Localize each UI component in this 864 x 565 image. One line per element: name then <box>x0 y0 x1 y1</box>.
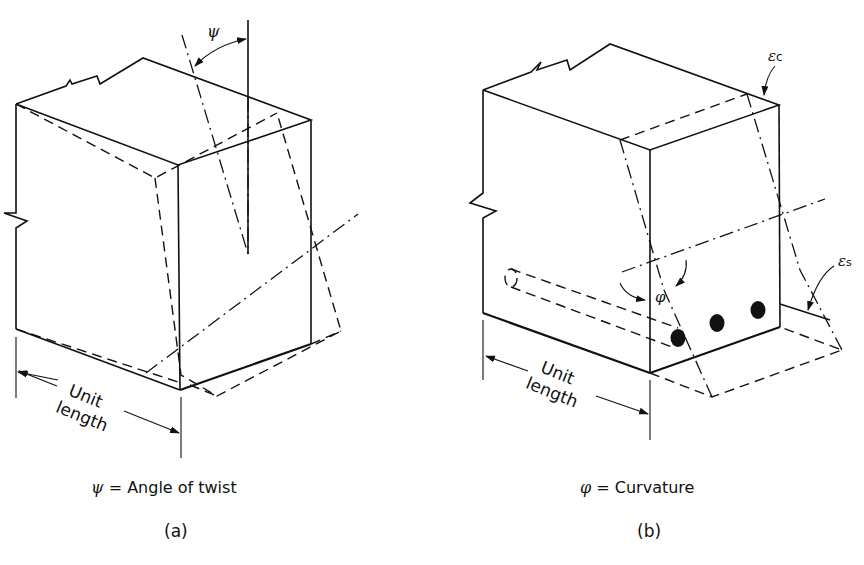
block-b-bottom-right-edge <box>650 327 780 373</box>
panel-b-curvature-block: φ εc εs Unit length <box>470 44 852 440</box>
steel-strain-label: εs <box>838 252 852 270</box>
rebar-dot-3 <box>751 301 766 319</box>
dim-b-arrow-right <box>596 396 648 414</box>
block-b-left-face <box>470 90 496 313</box>
block-a-top-face <box>16 58 311 165</box>
block-a-bottom-right-edge <box>180 344 311 390</box>
caption-a-symbol: ψ <box>91 478 104 497</box>
block-a-bottom-left-edge <box>16 329 180 390</box>
caption-b-symbol: φ <box>580 478 591 497</box>
rebar-cylinder-top <box>511 269 678 328</box>
concrete-strain-label: εc <box>768 47 783 65</box>
dim-b-arrow-left <box>486 356 528 371</box>
phi-arrow-left <box>620 283 645 300</box>
block-b-rotated-top <box>620 94 747 140</box>
sublabel-b: (b) <box>637 521 661 541</box>
longitudinal-axis-a <box>146 214 358 373</box>
rotated-section-front <box>620 140 712 397</box>
caption-b-text: = Curvature <box>596 478 694 497</box>
phi-curvature-label: φ <box>655 288 666 306</box>
steel-strain-extension <box>780 304 830 320</box>
caption-a-text: = Angle of twist <box>109 478 237 497</box>
psi-angle-label: ψ <box>207 22 220 41</box>
psi-angle-arc <box>195 39 246 66</box>
steel-strain-arrow <box>808 266 834 310</box>
longitudinal-axis-b <box>622 199 825 272</box>
rebar-dot-1 <box>671 329 686 347</box>
block-a-left-face <box>4 104 27 329</box>
block-a-twisted-bottom-front <box>190 385 217 396</box>
dim-a-arrow-right <box>124 411 179 433</box>
caption-b: φ = Curvature <box>580 478 694 497</box>
sublabel-a: (a) <box>164 521 188 541</box>
block-b-top-face <box>483 44 779 150</box>
rebar-end-hidden <box>505 269 517 287</box>
concrete-strain-arrow <box>764 66 775 95</box>
phi-arrow-right <box>676 260 686 286</box>
rebar-dot-2 <box>710 314 725 332</box>
caption-a: ψ = Angle of twist <box>91 478 237 497</box>
panel-a-twist-block: ψ Unit length <box>4 20 358 458</box>
